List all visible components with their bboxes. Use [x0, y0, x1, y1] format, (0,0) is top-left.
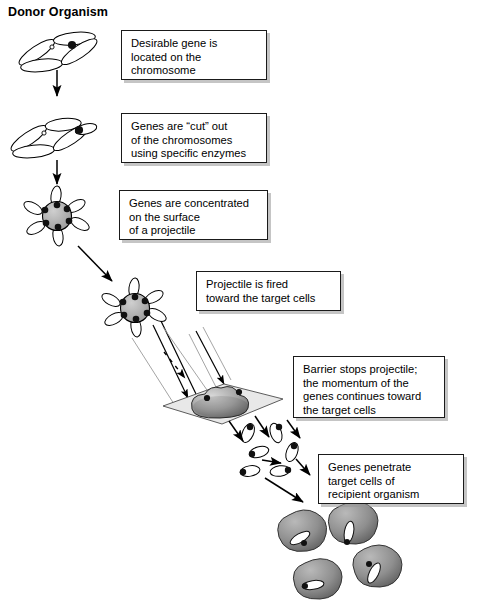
callout-genes-penetrate: Genes penetrate target cells of recipien… [318, 454, 464, 504]
chromosome-with-gene [12, 21, 103, 84]
target-cell [328, 501, 378, 545]
callout-barrier-stops: Barrier stops projectile; the momentum o… [293, 356, 445, 418]
arrow-step3-to-step4 [78, 246, 112, 281]
diagram-canvas: Donor Organism [0, 0, 483, 611]
callout-projectile-fired: Projectile is fired toward the target ce… [196, 271, 341, 311]
target-cell [278, 510, 327, 552]
projectile-in-flight [100, 277, 168, 337]
projectile-coated [22, 185, 91, 246]
target-cell [293, 559, 342, 599]
callout-desirable-gene: Desirable gene is located on the chromos… [121, 30, 267, 80]
target-cells [278, 501, 402, 599]
genes-in-flight [229, 416, 310, 502]
callout-genes-concentrated: Genes are concentrated on the surface of… [119, 190, 268, 240]
callout-genes-cut: Genes are “cut” out of the chromosomes u… [121, 113, 267, 163]
gene-marker-dot [68, 41, 76, 49]
barrier-with-stopped-projectile [163, 384, 283, 424]
target-cell [353, 545, 402, 587]
chromosome-gene-cut [4, 106, 98, 169]
